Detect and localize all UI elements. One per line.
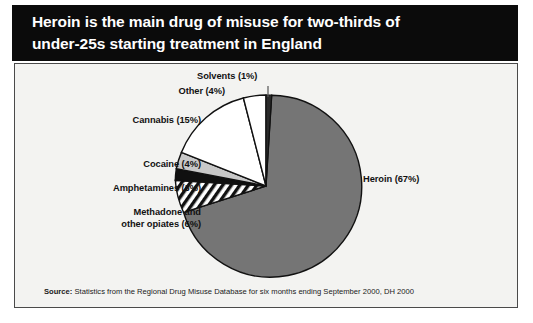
pie-label-cocaine: Cocaine (4%)	[53, 159, 201, 171]
chart-title-banner: Heroin is the main drug of misuse for tw…	[12, 5, 518, 61]
pie-label-other: Other (4%)	[113, 86, 225, 98]
pie-label-cannabis: Cannabis (15%)	[55, 115, 201, 127]
pie-label-heroin: Heroin (67%)	[363, 174, 483, 186]
source-label: Source:	[44, 287, 72, 296]
pie-label-amphetamines: Amphetamines (3%)	[25, 183, 201, 195]
chart-panel: Solvents (1%) Other (4%) Cannabis (15%) …	[14, 63, 518, 308]
pie-label-solvents: Solvents (1%)	[197, 71, 307, 83]
page-title: Heroin is the main drug of misuse for tw…	[32, 11, 504, 55]
chart-figure: Heroin is the main drug of misuse for tw…	[0, 0, 533, 323]
source-note: Source: Statistics from the Regional Dru…	[44, 287, 514, 296]
pie-label-methadone: Methadone and other opiates (6%)	[43, 207, 201, 230]
source-text: Statistics from the Regional Drug Misuse…	[72, 287, 414, 296]
